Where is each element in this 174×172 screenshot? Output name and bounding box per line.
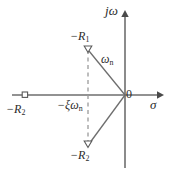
pole-upper-conjugate-label-sub: 1 xyxy=(85,35,89,44)
diagram-canvas xyxy=(0,0,174,172)
real-axis-arrow-icon xyxy=(157,91,164,98)
origin-label: 0 xyxy=(126,88,132,100)
pole-real-axis-marker-icon xyxy=(22,92,27,97)
pole-real-axis-label-sub: 2 xyxy=(21,108,25,117)
natural-frequency-label-sub: n xyxy=(109,58,113,67)
pole-lower-conjugate-label: −R2 xyxy=(70,149,89,163)
pole-upper-conjugate-marker-icon xyxy=(84,46,92,53)
pole-lower-conjugate-label-sub: 2 xyxy=(85,154,89,163)
radius-line-lower xyxy=(89,95,125,144)
pole-zero-diagram: jω σ 0 −R1 −R2 −R2 −ξωn ωn xyxy=(0,0,174,172)
pole-lower-conjugate-label-base: −R xyxy=(70,148,85,162)
pole-real-axis-label-base: −R xyxy=(6,102,21,116)
damping-projection-label-sub: n xyxy=(79,104,83,113)
real-axis-label: σ xyxy=(150,98,156,111)
pole-real-axis-label: −R2 xyxy=(6,103,25,117)
pole-upper-conjugate-label-base: −R xyxy=(70,29,85,43)
damping-projection-label-base: −ξω xyxy=(57,98,79,112)
damping-projection-label: −ξωn xyxy=(57,99,83,113)
pole-lower-conjugate-marker-icon xyxy=(84,141,92,148)
natural-frequency-label: ωn xyxy=(101,53,113,67)
imaginary-axis-arrow-icon xyxy=(121,10,128,17)
imaginary-axis-label: jω xyxy=(105,4,118,17)
pole-upper-conjugate-label: −R1 xyxy=(70,30,89,44)
